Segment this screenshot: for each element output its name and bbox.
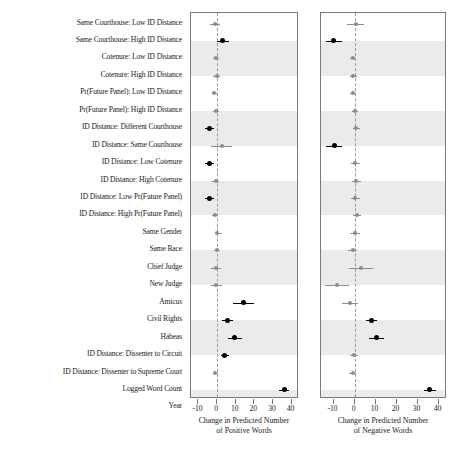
x-axis-tick-label: -10 <box>192 404 202 414</box>
row-label: Cotenure: High ID Distance <box>0 70 182 79</box>
point-estimate <box>222 353 227 358</box>
x-axis-tick-label: -10 <box>328 404 338 414</box>
x-axis-tick-label: 30 <box>268 404 276 414</box>
row-label: Year <box>0 401 182 410</box>
point-estimate <box>353 161 357 165</box>
row-label: ID Distance: High Cotenure <box>0 175 182 184</box>
point-estimate <box>214 266 218 270</box>
zero-reference-line <box>355 13 356 397</box>
point-estimate <box>207 196 212 201</box>
row-shading-band <box>321 250 445 285</box>
row-shading-band <box>191 390 297 398</box>
point-estimate <box>335 283 339 287</box>
row-label: ID Distance: Dissenter to Supreme Court <box>0 367 182 376</box>
x-axis-title-positive: Change in Predicted Numberof Positive Wo… <box>190 416 298 435</box>
row-label: Logged Word Count <box>0 384 182 393</box>
point-estimate <box>351 371 355 375</box>
row-shading-band <box>191 250 297 285</box>
x-axis-tick-label: 20 <box>392 404 400 414</box>
x-axis-tick-label: 40 <box>434 404 442 414</box>
point-estimate <box>332 143 337 148</box>
row-label: Amicus <box>0 297 182 306</box>
point-estimate <box>348 301 352 305</box>
point-estimate <box>214 179 218 183</box>
row-label: Pr(Future Panel): High ID Distance <box>0 105 182 114</box>
x-axis-tick-label: 30 <box>413 404 421 414</box>
row-label: Civil Rights <box>0 314 182 323</box>
point-estimate <box>215 74 219 78</box>
point-estimate <box>225 318 230 323</box>
point-estimate <box>353 231 357 235</box>
row-label: ID Distance: Same Courthouse <box>0 140 182 149</box>
x-axis-title-negative: Change in Predicted Numberof Negative Wo… <box>320 416 446 435</box>
point-estimate <box>355 213 359 217</box>
x-axis-tick-label: 20 <box>250 404 258 414</box>
point-estimate <box>214 109 218 113</box>
point-estimate <box>215 231 219 235</box>
x-axis-positive: -10010203040 <box>190 399 298 415</box>
point-estimate <box>213 371 217 375</box>
x-axis-title-line: of Negative Words <box>320 426 446 436</box>
x-axis-negative: -10010203040 <box>320 399 446 415</box>
point-estimate <box>354 22 358 26</box>
x-axis-title-line: Change in Predicted Number <box>190 416 298 426</box>
coefficient-plot-figure: Same Courthouse: Low ID DistanceSame Cou… <box>0 0 451 470</box>
row-shading-band <box>321 111 445 146</box>
row-shading-band <box>321 390 445 398</box>
point-estimate <box>353 109 357 113</box>
row-label-column: Same Courthouse: Low ID DistanceSame Cou… <box>0 0 186 470</box>
point-estimate <box>352 353 356 357</box>
row-label: ID Distance: Dissenter to Circuit <box>0 349 182 358</box>
row-label: Same Race <box>0 244 182 253</box>
x-axis-tick-label: 40 <box>287 404 295 414</box>
x-axis-tick-label: 10 <box>371 404 379 414</box>
row-label: Cotenure: Low ID Distance <box>0 52 182 61</box>
row-label: Chief Judge <box>0 262 182 271</box>
row-shading-band <box>191 320 297 355</box>
point-estimate <box>359 266 363 270</box>
row-shading-band <box>321 181 445 216</box>
row-label: ID Distance: Low Cotenure <box>0 157 182 166</box>
x-axis-title-line: Change in Predicted Number <box>320 416 446 426</box>
row-label: New Judge <box>0 279 182 288</box>
point-estimate <box>207 126 212 131</box>
x-axis-tick-label: 0 <box>352 404 356 414</box>
x-axis-tick-label: 0 <box>214 404 218 414</box>
row-label: Same Gender <box>0 227 182 236</box>
row-shading-band <box>191 41 297 76</box>
row-label: Same Courthouse: Low ID Distance <box>0 18 182 27</box>
row-label: Same Courthouse: High ID Distance <box>0 35 182 44</box>
plot-frame-positive <box>190 12 298 398</box>
point-estimate <box>213 22 217 26</box>
row-label: ID Distance: High Pr(Future Panel) <box>0 209 182 218</box>
x-axis-tick-label: 10 <box>231 404 239 414</box>
point-estimate <box>207 161 212 166</box>
row-label: Habeas <box>0 332 182 341</box>
plot-frame-negative <box>320 12 446 398</box>
row-label: ID Distance: Low Pr(Future Panel) <box>0 192 182 201</box>
point-estimate <box>369 318 374 323</box>
zero-reference-line <box>217 13 218 397</box>
x-axis-title-line: of Positive Words <box>190 426 298 436</box>
row-label: ID Distance: Different Courthouse <box>0 122 182 131</box>
point-estimate <box>241 300 246 305</box>
row-shading-band <box>321 41 445 76</box>
point-estimate <box>220 144 224 148</box>
point-estimate <box>212 91 216 95</box>
row-label: Pr(Future Panel): Low ID Distance <box>0 87 182 96</box>
